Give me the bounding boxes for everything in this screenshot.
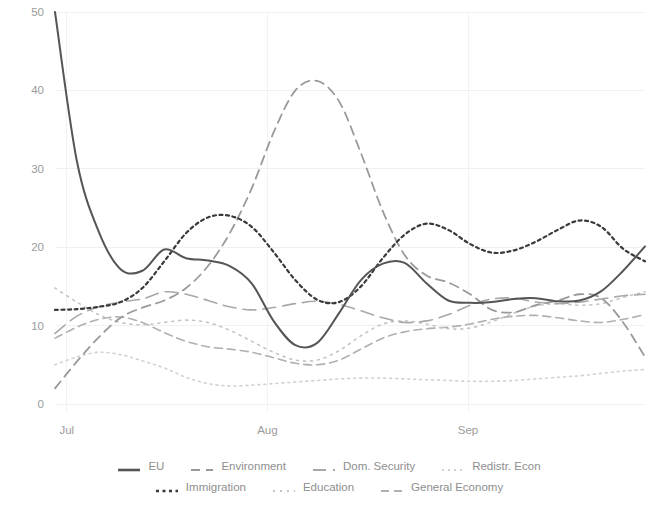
x-axis-tick-label: Sep (458, 424, 478, 436)
legend-label: EU (148, 460, 164, 472)
line-chart: 01020304050 JulAugSep (0, 0, 658, 455)
y-axis-tick-labels: 01020304050 (31, 6, 44, 410)
series-line-eu (55, 12, 645, 348)
y-axis-tick-label: 0 (38, 398, 44, 410)
legend-label: Education (303, 481, 354, 493)
series-line-redistr-econ (55, 352, 645, 386)
x-axis-tick-label: Aug (257, 424, 277, 436)
legend-swatch-redistr-econ-icon (441, 461, 465, 471)
y-axis-tick-label: 10 (31, 320, 44, 332)
legend-item-immigration[interactable]: Immigration (155, 481, 246, 493)
legend-item-environment[interactable]: Environment (190, 460, 286, 472)
horizontal-gridlines (55, 12, 645, 404)
x-axis-tick-label: Jul (59, 424, 74, 436)
legend-swatch-dom-security-icon (312, 461, 336, 471)
data-series-group (55, 12, 645, 388)
legend-swatch-environment-icon (190, 461, 214, 471)
legend-item-eu[interactable]: EU (117, 460, 164, 472)
y-axis-tick-label: 20 (31, 241, 44, 253)
legend-row: EUEnvironmentDom. SecurityRedistr. Econ (0, 455, 658, 476)
legend-label: General Economy (411, 481, 503, 493)
y-axis-tick-label: 30 (31, 163, 44, 175)
legend-swatch-education-icon (272, 482, 296, 492)
legend-label: Dom. Security (343, 460, 415, 472)
series-line-dom-security (55, 292, 645, 334)
y-axis-tick-label: 50 (31, 6, 44, 18)
chart-legend: EUEnvironmentDom. SecurityRedistr. EconI… (0, 455, 658, 497)
legend-swatch-immigration-icon (155, 482, 179, 492)
series-line-general-economy (55, 315, 645, 365)
vertical-gridlines (67, 12, 468, 412)
legend-swatch-general-economy-icon (380, 482, 404, 492)
legend-item-redistr-econ[interactable]: Redistr. Econ (441, 460, 540, 472)
series-line-education (55, 288, 645, 361)
chart-container: 01020304050 JulAugSep EUEnvironmentDom. … (0, 0, 658, 506)
legend-item-education[interactable]: Education (272, 481, 354, 493)
legend-label: Environment (221, 460, 286, 472)
series-line-environment (55, 80, 645, 388)
legend-label: Redistr. Econ (472, 460, 540, 472)
legend-swatch-eu-icon (117, 461, 141, 471)
legend-item-general-economy[interactable]: General Economy (380, 481, 503, 493)
legend-row: ImmigrationEducationGeneral Economy (0, 476, 658, 497)
legend-label: Immigration (186, 481, 246, 493)
x-axis-tick-labels: JulAugSep (59, 424, 478, 436)
legend-item-dom-security[interactable]: Dom. Security (312, 460, 415, 472)
y-axis-tick-label: 40 (31, 84, 44, 96)
